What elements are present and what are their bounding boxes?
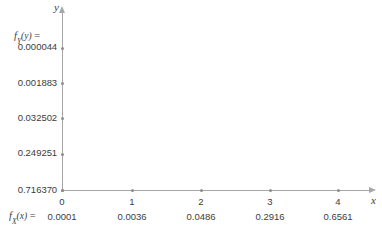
marginal-distribution-figure: y x 4 3 2 1 0 0.00004 0.00188 0.03250 0.… — [0, 0, 382, 234]
marginal-y-value-1: 0.24925 — [4, 147, 52, 158]
marginal-x-value-2: 0.0486 — [172, 211, 230, 222]
marginal-x-value-0: 0.0001 — [33, 211, 91, 222]
y-tick-dot-4 — [61, 47, 64, 50]
y-axis-arrow-icon — [59, 6, 65, 13]
marginal-y-caption-equals: = — [34, 30, 40, 41]
y-tick-dot-1 — [61, 153, 64, 156]
marginal-x-caption-equals: = — [30, 210, 36, 221]
y-axis-line — [62, 12, 63, 191]
marginal-x-caption-subscript: X — [12, 217, 17, 226]
marginal-x-caption: fX(x) = — [9, 210, 36, 224]
x-tick-dot-2 — [200, 189, 203, 192]
x-tick-label-4: 4 — [318, 196, 358, 207]
marginal-y-caption-subscript: Y — [17, 37, 21, 46]
x-tick-label-2: 2 — [181, 196, 221, 207]
x-tick-dot-0 — [61, 189, 64, 192]
x-tick-dot-1 — [131, 189, 134, 192]
x-axis-arrow-icon — [369, 187, 376, 193]
x-axis-label: x — [371, 194, 376, 206]
y-axis-label: y — [54, 1, 59, 13]
marginal-y-caption: fY(y) = — [14, 30, 40, 44]
x-tick-label-1: 1 — [112, 196, 152, 207]
marginal-y-caption-arg: (y) — [21, 31, 32, 41]
marginal-y-value-2: 0.03250 — [4, 112, 52, 123]
marginal-x-value-1: 0.0036 — [103, 211, 161, 222]
x-axis-line — [62, 190, 370, 191]
marginal-x-value-4: 0.6561 — [309, 211, 367, 222]
marginal-y-value-3: 0.00188 — [4, 77, 52, 88]
marginal-y-value-0: 0.71637 — [4, 184, 52, 195]
y-tick-dot-2 — [61, 117, 64, 120]
x-tick-dot-3 — [269, 189, 272, 192]
x-tick-label-3: 3 — [250, 196, 290, 207]
y-tick-dot-3 — [61, 82, 64, 85]
x-tick-label-0: 0 — [42, 196, 82, 207]
marginal-x-value-3: 0.2916 — [241, 211, 299, 222]
marginal-x-caption-arg: (x) — [17, 211, 28, 221]
x-tick-dot-4 — [337, 189, 340, 192]
